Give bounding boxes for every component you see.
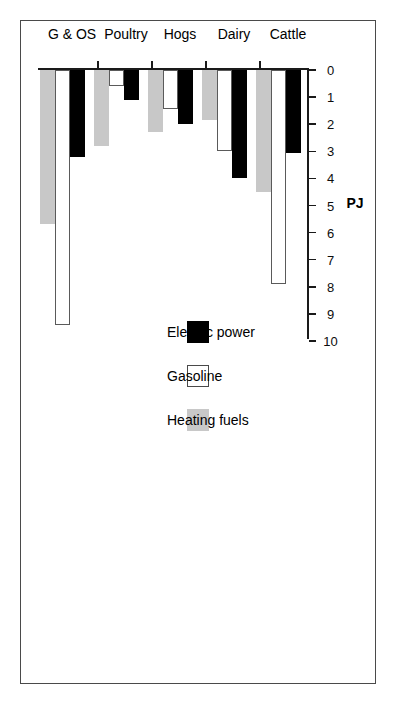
value-tick [309,232,316,234]
value-tick [309,123,316,125]
value-tick [309,286,316,288]
legend-label: Electric power [167,324,255,340]
category-label: G & OS [40,25,104,43]
legend-label: Heating fuels [167,412,249,428]
bar-electric-power-hogs [178,70,193,124]
value-tick-label: 4 [318,172,344,185]
value-tick [309,340,316,342]
bar-electric-power-cattle [286,70,301,153]
bar-electric-power-dairy [232,70,247,178]
plot-area: 012345678910 PJ CattleDairyHogsPoultryG … [21,21,377,685]
value-tick-label: 1 [318,91,344,104]
value-tick-label: 7 [318,253,344,266]
value-tick-label: 9 [318,307,344,320]
bar-electric-power-g-os [70,70,85,157]
value-tick [309,313,316,315]
rotated-chart-wrapper: 012345678910 PJ CattleDairyHogsPoultryG … [21,21,377,685]
bar-gasoline-g-os [55,70,70,325]
bar-heating-fuels-cattle [256,70,271,192]
value-tick-label: 5 [318,199,344,212]
axis-title-pj: PJ [346,194,363,210]
value-tick [309,205,316,207]
bar-gasoline-hogs [163,70,178,109]
bar-heating-fuels-hogs [148,70,163,132]
bar-gasoline-cattle [271,70,286,284]
value-axis-line [307,68,309,339]
legend-label: Gasoline [167,368,222,384]
value-tick-label: 6 [318,226,344,239]
category-tick [98,61,100,69]
bar-gasoline-poultry [109,70,124,86]
bar-heating-fuels-g-os [40,70,55,224]
category-tick [152,61,154,69]
value-tick [309,151,316,153]
scanned-page: 012345678910 PJ CattleDairyHogsPoultryG … [0,0,398,704]
value-tick [309,259,316,261]
bar-heating-fuels-poultry [94,70,109,146]
value-tick [309,69,316,71]
category-tick [260,61,262,69]
value-tick [309,96,316,98]
value-tick [309,178,316,180]
figure-frame: 012345678910 PJ CattleDairyHogsPoultryG … [20,20,376,684]
bar-gasoline-dairy [217,70,232,151]
bar-electric-power-poultry [124,70,139,100]
bar-heating-fuels-dairy [202,70,217,120]
value-tick-label: 8 [318,280,344,293]
bar-chart: 012345678910 PJ CattleDairyHogsPoultryG … [21,21,377,685]
category-tick [206,61,208,69]
value-tick-label: 2 [318,118,344,131]
value-tick-label: 3 [318,145,344,158]
value-tick-label: 10 [318,335,344,348]
value-tick-label: 0 [318,64,344,77]
